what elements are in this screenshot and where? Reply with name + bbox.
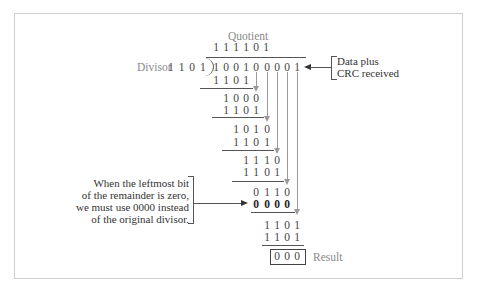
quotient-digit: 1 (241, 41, 251, 53)
subtraction-line (232, 181, 284, 182)
quotient-digit: 1 (261, 41, 271, 53)
step-digit: 1 (262, 231, 272, 243)
result-label: Result (313, 251, 342, 263)
subtraction-line (200, 88, 253, 89)
divisor-label: Divisor (137, 61, 172, 73)
subtraction-line (222, 150, 274, 151)
step-digit: 0 (241, 104, 251, 116)
step-digit: 1 (241, 154, 251, 166)
step-digit: 1 (251, 166, 261, 178)
step-digit: 1 (221, 104, 231, 116)
step-digit: 0 (241, 123, 251, 135)
step-digit: 1 (241, 136, 251, 148)
down-arrow-icon (264, 116, 270, 122)
quotient-digit: 0 (251, 41, 261, 53)
step-digit: 1 (262, 154, 272, 166)
quotient-digit: 1 (231, 41, 241, 53)
quotient-digit: 1 (221, 41, 231, 53)
step-digit: 0 (251, 198, 261, 210)
right-arrow-icon (241, 200, 248, 206)
step-digit: 1 (221, 74, 231, 86)
step-digit: 1 (292, 219, 302, 231)
step-digit: 1 (272, 186, 282, 198)
step-digit: 0 (282, 186, 292, 198)
step-digit: 1 (231, 104, 241, 116)
step-digit: 1 (221, 92, 231, 104)
step-digit: 1 (272, 231, 282, 243)
note-line4: of the original divisor. (91, 213, 189, 226)
divisor-value: 1 1 0 1 (168, 61, 207, 73)
bring-down-line (287, 72, 288, 180)
note-bracket (188, 176, 194, 224)
down-arrow-icon (294, 209, 300, 215)
subtraction-line (262, 245, 304, 246)
down-arrow-icon (274, 148, 280, 154)
step-digit: 0 (262, 123, 272, 135)
data-crc-label-line2: CRC received (337, 67, 399, 80)
step-digit: 1 (272, 166, 282, 178)
down-arrow-icon (284, 179, 290, 185)
subtraction-line (212, 117, 264, 118)
step-digit: 1 (262, 136, 272, 148)
step-digit: 0 (282, 231, 292, 243)
dividend-digit: 0 (221, 61, 231, 73)
step-digit: 0 (262, 198, 272, 210)
step-digit: 0 (251, 92, 261, 104)
step-digit: 1 (241, 166, 251, 178)
step-digit: 0 (231, 74, 241, 86)
step-digit: 1 (292, 231, 302, 243)
step-digit: 1 (231, 136, 241, 148)
step-digit: 0 (282, 219, 292, 231)
result-digit: 0 (292, 250, 302, 262)
step-digit: 1 (231, 123, 241, 135)
step-digit: 1 (262, 219, 272, 231)
arrow-line (310, 67, 331, 68)
step-digit: 1 (241, 74, 251, 86)
step-digit: 1 (262, 186, 272, 198)
dividend-digit: 1 (211, 61, 221, 73)
step-digit: 1 (211, 74, 221, 86)
bring-down-line (256, 72, 257, 87)
step-digit: 1 (272, 219, 282, 231)
bring-down-line (277, 72, 278, 149)
dividend-digit: 0 (231, 61, 241, 73)
result-digit: 0 (272, 250, 282, 262)
step-digit: 0 (231, 92, 241, 104)
quotient-digit: 1 (211, 41, 221, 53)
step-digit: 1 (251, 104, 261, 116)
step-digit: 0 (282, 198, 292, 210)
step-digit: 0 (272, 154, 282, 166)
step-digit: 0 (241, 92, 251, 104)
bring-down-line (267, 72, 268, 117)
down-arrow-icon (253, 86, 259, 92)
step-digit: 1 (251, 154, 261, 166)
step-digit: 0 (251, 186, 261, 198)
dividend-digit: 1 (241, 61, 251, 73)
division-overline (206, 57, 306, 58)
result-digit: 0 (282, 250, 292, 262)
step-digit: 1 (251, 123, 261, 135)
step-digit: 0 (251, 136, 261, 148)
bring-down-line (297, 72, 298, 210)
step-digit: 0 (262, 166, 272, 178)
note-arrow-line (193, 203, 241, 204)
step-digit: 0 (272, 198, 282, 210)
subtraction-line (251, 212, 295, 213)
